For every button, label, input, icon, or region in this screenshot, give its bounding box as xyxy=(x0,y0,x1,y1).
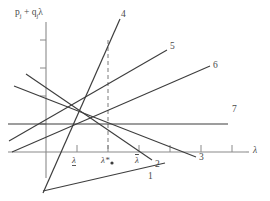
tick-label-lambda-upper: λ xyxy=(135,156,139,165)
line-label-4: 4 xyxy=(121,10,126,20)
line-label-3: 3 xyxy=(199,153,204,163)
y-axis-label-lambda: λ xyxy=(38,7,43,17)
y-axis-label: pj + qjλ xyxy=(15,8,43,19)
line-label-2: 2 xyxy=(155,160,160,170)
x-axis-label: λ xyxy=(253,146,257,156)
tick-label-lambda-star: λ* xyxy=(101,156,109,165)
line-label-7: 7 xyxy=(232,105,237,115)
function-line-6 xyxy=(12,66,210,152)
function-line-1 xyxy=(43,163,165,191)
line-label-1: 1 xyxy=(148,172,153,182)
tick-label-lambda-lower: λ xyxy=(72,156,76,166)
plot-canvas xyxy=(0,0,270,201)
y-axis-label-plus-q: + q xyxy=(22,7,37,17)
line-label-6: 6 xyxy=(213,61,218,71)
lambda-star-dot-marker xyxy=(110,161,113,164)
y-axis-ticks xyxy=(40,40,46,124)
line-label-5: 5 xyxy=(170,42,175,52)
x-axis-ticks xyxy=(77,145,232,152)
tick-label-star-mark: * xyxy=(105,155,110,165)
function-line-3 xyxy=(14,86,196,157)
function-line-2 xyxy=(26,74,152,160)
figure-container: pj + qjλ λ λ λ* λ 1 2 3 4 5 6 7 xyxy=(0,0,270,201)
